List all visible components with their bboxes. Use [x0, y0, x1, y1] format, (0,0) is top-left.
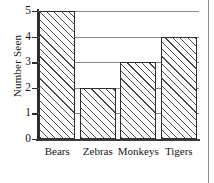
y-axis-tick-label: 2 — [20, 82, 31, 94]
page-edge-line — [208, 0, 209, 183]
y-axis-tick-label: 5 — [20, 5, 31, 17]
y-axis-tick-label: 0 — [20, 133, 31, 145]
bar-chart-screenshot: Number Seen 012345 BearsZebrasMonkeysTig… — [0, 0, 214, 183]
y-axis-tick-label: 1 — [20, 107, 31, 119]
bar-chart: Number Seen 012345 BearsZebrasMonkeysTig… — [0, 0, 214, 183]
plot-area — [37, 11, 199, 139]
y-axis-tick — [32, 139, 38, 140]
bar-tigers — [161, 37, 197, 139]
x-axis-line — [36, 139, 200, 141]
y-axis-tick-label: 4 — [20, 31, 31, 43]
x-axis-tick-label: Tigers — [153, 145, 206, 157]
bar-monkeys — [120, 62, 156, 139]
bar-zebras — [80, 88, 116, 139]
bar-bears — [39, 11, 75, 139]
y-axis-tick-label: 3 — [20, 56, 31, 68]
